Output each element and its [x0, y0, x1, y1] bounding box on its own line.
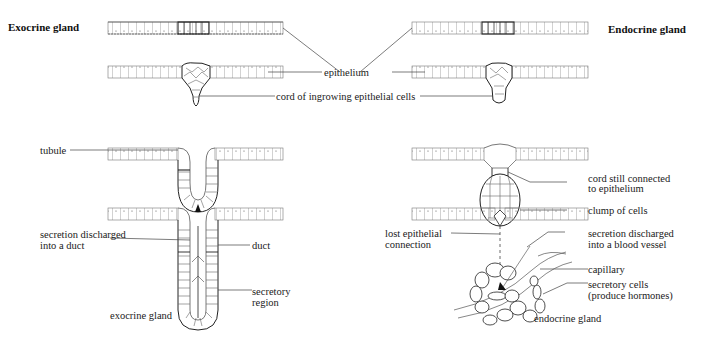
endocrine-stage2-cord	[412, 63, 588, 103]
label-secretory-region-1: secretory	[252, 286, 290, 297]
label-secretory-cells-2: (produce hormones)	[588, 290, 673, 301]
label-secretion-duct-2: into a duct	[40, 240, 84, 251]
label-epithelium: epithelium	[324, 67, 369, 78]
label-duct: duct	[252, 240, 270, 251]
label-secretory-region-2: region	[252, 297, 279, 308]
label-lost-connection-2: connection	[385, 239, 431, 250]
exocrine-stage1-epithelium	[108, 22, 283, 34]
label-cord-connected-2: to epithelium	[588, 183, 644, 194]
exocrine-stage3-tubule	[108, 148, 283, 212]
label-exocrine-gland: exocrine gland	[110, 310, 172, 321]
exocrine-stage2-cord	[108, 63, 283, 106]
label-secretion-duct-1: secretion discharged	[40, 229, 126, 240]
label-tubule: tubule	[40, 145, 66, 156]
label-cord: cord of ingrowing epithelial cells	[276, 91, 415, 102]
endocrine-title: Endocrine gland	[608, 23, 686, 35]
label-endocrine-gland: endocrine gland	[534, 313, 601, 324]
label-capillary: capillary	[588, 264, 625, 275]
label-secretory-cells-1: secretory cells	[588, 279, 648, 290]
label-clump: clump of cells	[588, 205, 647, 216]
endocrine-stage1-epithelium	[412, 22, 588, 34]
label-secretion-blood-1: secretion discharged	[588, 228, 674, 239]
label-lost-connection-1: lost epithelial	[385, 228, 442, 239]
exocrine-title: Exocrine gland	[8, 21, 79, 33]
endocrine-stage4-gland	[412, 208, 588, 325]
label-secretion-blood-2: into a blood vessel	[588, 239, 666, 250]
